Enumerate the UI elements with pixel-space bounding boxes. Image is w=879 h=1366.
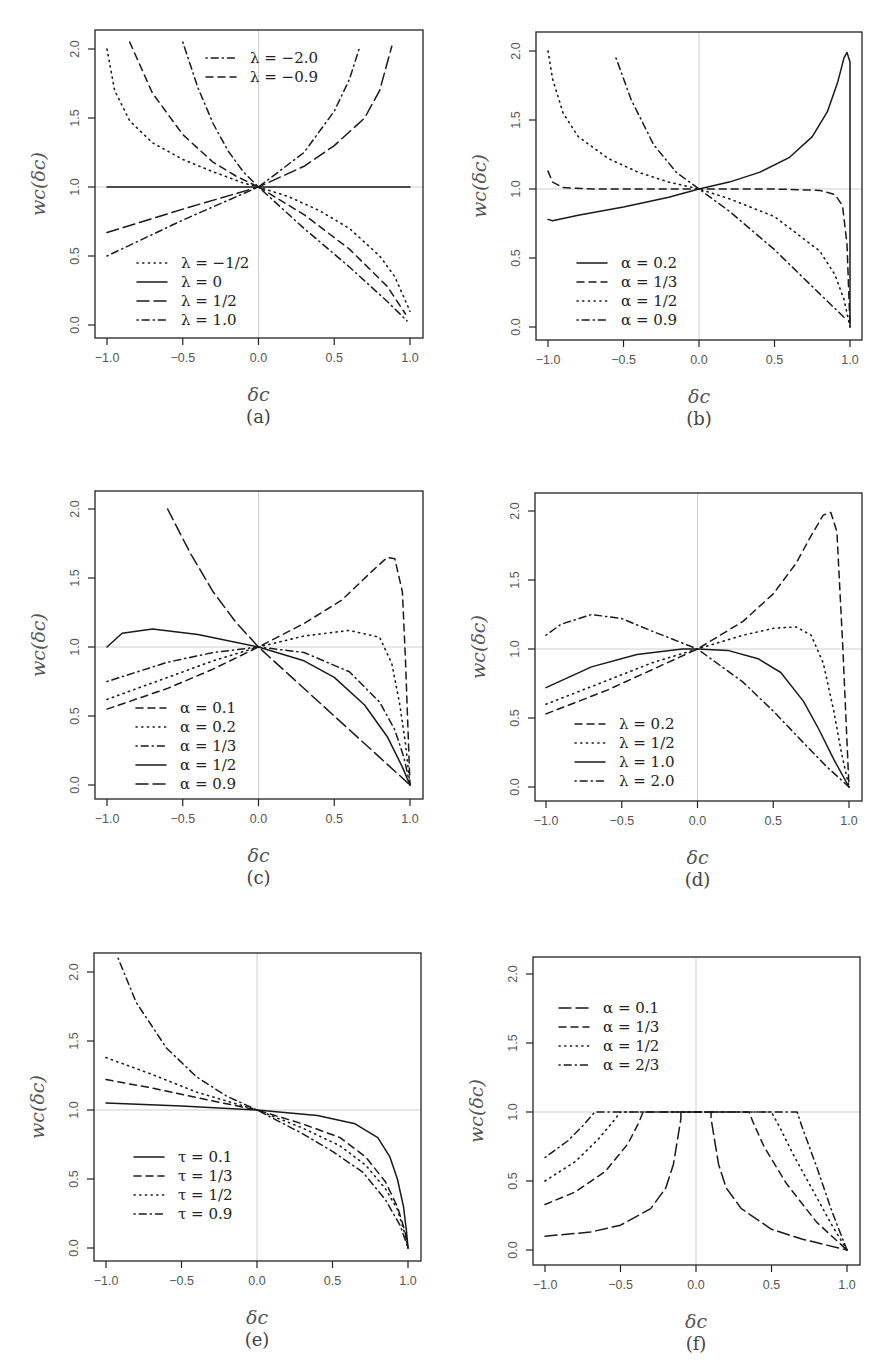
y-tick-label: 1.5 <box>508 571 522 588</box>
y-tick-label: 1.0 <box>506 1103 520 1120</box>
y-tick-label: 0.0 <box>67 1239 81 1256</box>
y-tick-label: 2.0 <box>509 42 523 59</box>
legend-label: α = 1/2 <box>180 756 236 774</box>
legend-label: α = 0.9 <box>180 775 236 793</box>
y-tick-label: 0.5 <box>509 249 523 266</box>
y-tick-label: 1.5 <box>68 109 82 126</box>
plot-frame <box>535 493 862 801</box>
panel-label: (d) <box>685 869 711 890</box>
series-line <box>183 42 259 187</box>
panel-e: −1.0−0.50.00.51.00.00.51.01.52.0wc(δc)δc… <box>26 953 421 1350</box>
legend-label: τ = 0.9 <box>178 1205 232 1223</box>
x-axis-title: δc <box>246 1306 268 1328</box>
y-tick-label: 1.5 <box>68 569 82 586</box>
y-tick-label: 0.5 <box>68 247 82 264</box>
legend-label: λ = −2.0 <box>250 49 318 67</box>
x-tick-label: −1.0 <box>534 814 559 828</box>
y-tick-label: 1.0 <box>508 640 522 657</box>
x-tick-label: −1.0 <box>95 812 120 826</box>
legend: α = 0.2α = 1/3α = 1/2α = 0.9 <box>577 254 677 329</box>
legend-label: α = 0.2 <box>180 718 236 736</box>
series-line <box>259 187 406 314</box>
legend-label: λ = 1/2 <box>181 292 237 310</box>
y-tick-label: 0.5 <box>67 1170 81 1187</box>
series-line <box>118 958 408 1248</box>
y-tick-label: 1.5 <box>67 1032 81 1049</box>
y-axis-title: wc(δc) <box>468 154 490 218</box>
y-tick-label: 0.5 <box>68 707 82 724</box>
y-tick-label: 2.0 <box>68 40 82 57</box>
x-tick-label: 0.5 <box>763 1278 780 1292</box>
y-axis-title: wc(δc) <box>27 613 49 677</box>
legend-label: α = 0.1 <box>603 999 659 1017</box>
x-tick-label: 1.0 <box>838 1278 855 1292</box>
x-tick-label: 0.0 <box>248 1274 265 1288</box>
y-tick-label: 2.0 <box>506 965 520 982</box>
x-tick-label: 0.5 <box>326 351 343 365</box>
legend: λ = −2.0λ = −0.9λ = −1/2λ = 0λ = 1/2λ = … <box>137 49 318 329</box>
legend-label: α = 0.9 <box>621 311 677 329</box>
y-axis-title: wc(δc) <box>467 615 489 679</box>
x-tick-label: 0.5 <box>765 814 782 828</box>
legend-label: λ = 1.0 <box>181 311 236 329</box>
panel-c: −1.0−0.50.00.51.00.00.51.01.52.0wc(δc)δc… <box>27 491 423 888</box>
figure-canvas: −1.0−0.50.00.51.00.00.51.01.52.0wc(δc)δc… <box>0 0 879 1366</box>
y-tick-label: 1.0 <box>68 638 82 655</box>
chart-panels: −1.0−0.50.00.51.00.00.51.01.52.0wc(δc)δc… <box>26 30 862 1354</box>
x-tick-label: 0.5 <box>766 353 783 367</box>
x-axis-title: δc <box>686 846 708 868</box>
y-tick-label: 1.0 <box>67 1101 81 1118</box>
legend-label: α = 1/3 <box>180 737 236 755</box>
y-tick-label: 1.5 <box>509 111 523 128</box>
y-tick-label: 0.0 <box>508 778 522 795</box>
x-tick-label: 1.0 <box>399 1274 416 1288</box>
y-tick-label: 1.0 <box>68 178 82 195</box>
y-tick-label: 1.5 <box>506 1034 520 1051</box>
x-tick-label: −1.0 <box>536 353 561 367</box>
y-axis-title: wc(δc) <box>27 152 49 216</box>
y-tick-label: 2.0 <box>508 502 522 519</box>
legend-label: α = 0.2 <box>621 254 677 272</box>
x-tick-label: 1.0 <box>841 353 858 367</box>
x-tick-label: 0.0 <box>690 353 707 367</box>
panel-label: (b) <box>686 408 712 429</box>
series-line <box>259 187 408 321</box>
legend-label: α = 1/2 <box>621 292 677 310</box>
legend-label: λ = 1/2 <box>619 734 675 752</box>
panel-b: −1.0−0.50.00.51.00.00.51.01.52.0wc(δc)δc… <box>468 32 862 429</box>
x-tick-label: −0.5 <box>608 1278 633 1292</box>
x-tick-label: −0.5 <box>170 351 195 365</box>
x-tick-label: 1.0 <box>840 814 857 828</box>
y-tick-label: 2.0 <box>68 500 82 517</box>
x-tick-label: −0.5 <box>170 812 195 826</box>
x-axis-title: δc <box>247 383 269 405</box>
legend-label: λ = 0 <box>181 273 222 291</box>
legend-label: τ = 1/3 <box>178 1167 233 1185</box>
x-tick-label: 0.0 <box>687 1278 704 1292</box>
y-tick-label: 2.0 <box>67 963 81 980</box>
legend: α = 0.1α = 1/3α = 1/2α = 2/3 <box>559 999 659 1074</box>
y-tick-label: 0.5 <box>506 1172 520 1189</box>
panel-label: (c) <box>246 867 270 888</box>
x-tick-label: −0.5 <box>609 814 634 828</box>
x-tick-label: 0.0 <box>689 814 706 828</box>
legend-label: λ = −0.9 <box>250 68 318 86</box>
panel-d: −1.0−0.50.00.51.00.00.51.01.52.0wc(δc)δc… <box>467 493 862 890</box>
x-tick-label: −0.5 <box>611 353 636 367</box>
legend: α = 0.1α = 0.2α = 1/3α = 1/2α = 0.9 <box>136 699 236 793</box>
y-tick-label: 0.0 <box>68 776 82 793</box>
panel-label: (a) <box>246 406 271 427</box>
y-tick-label: 1.0 <box>509 180 523 197</box>
y-tick-label: 0.0 <box>506 1241 520 1258</box>
y-tick-label: 0.5 <box>508 709 522 726</box>
x-axis-title: δc <box>688 385 710 407</box>
panel-f: −1.0−0.50.00.51.00.00.51.01.52.0wc(δc)δc… <box>465 957 860 1354</box>
x-tick-label: 0.0 <box>250 351 267 365</box>
legend-label: α = 2/3 <box>603 1056 659 1074</box>
panel-a: −1.0−0.50.00.51.00.00.51.01.52.0wc(δc)δc… <box>27 30 423 427</box>
x-tick-label: 1.0 <box>401 351 418 365</box>
legend-label: α = 1/3 <box>603 1018 659 1036</box>
x-tick-label: 0.5 <box>324 1274 341 1288</box>
y-axis-title: wc(δc) <box>465 1079 487 1143</box>
x-tick-label: 1.0 <box>401 812 418 826</box>
